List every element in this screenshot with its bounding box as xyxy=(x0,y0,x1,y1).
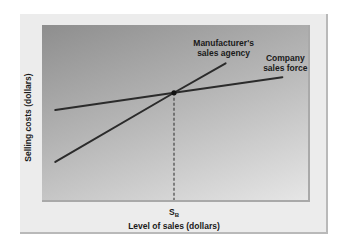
series-layer xyxy=(55,63,282,162)
series-label-company-line1: Company xyxy=(266,53,305,63)
chart-svg: Manufacturer's sales agency Company sale… xyxy=(0,0,346,252)
y-axis-label: Selling costs (dollars) xyxy=(23,73,33,161)
series-label-agency-line1: Manufacturer's xyxy=(193,38,254,48)
series-label-company-line2: sales force xyxy=(263,63,308,73)
break-even-point xyxy=(171,90,176,95)
x-tick-label-sb: SB xyxy=(169,207,180,218)
annotation-layer xyxy=(171,90,176,200)
series-label-agency-line2: sales agency xyxy=(197,48,250,58)
x-tick-subscript: B xyxy=(175,212,180,218)
series-line-company-sales-force xyxy=(55,77,282,110)
series-line-manufacturers-agency xyxy=(55,63,225,162)
x-axis-label: Level of sales (dollars) xyxy=(128,221,220,231)
